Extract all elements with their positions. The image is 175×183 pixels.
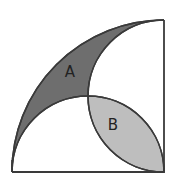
- label-b: B: [108, 116, 118, 134]
- geometry-diagram: A B: [0, 0, 175, 183]
- region-b: [88, 96, 164, 172]
- label-a: A: [65, 63, 76, 81]
